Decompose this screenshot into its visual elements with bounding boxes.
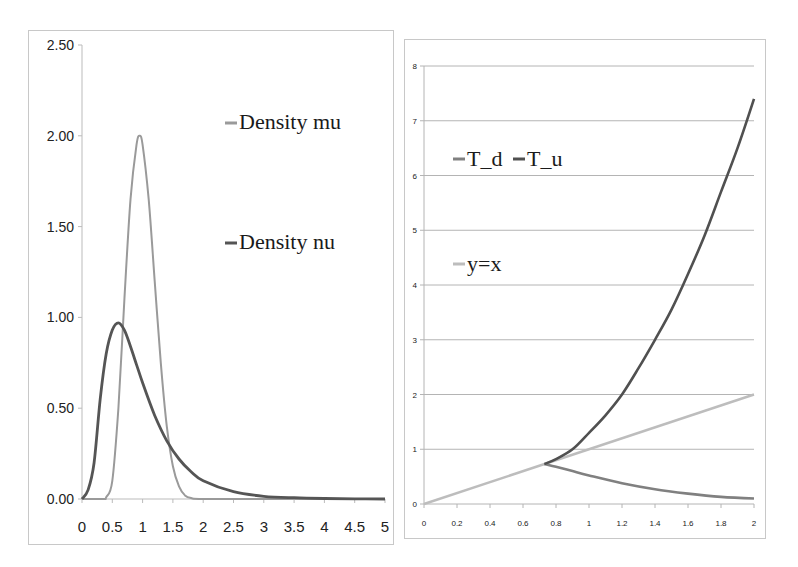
y-tick-label: 1.00 [47, 309, 74, 325]
y-tick-label: 6 [413, 172, 418, 181]
x-tick-label: 3 [260, 518, 268, 535]
density-chart: 0.000.501.001.502.002.5000.511.522.533.5… [29, 31, 393, 544]
series-line-density-mu [82, 136, 385, 499]
x-tick-label: 1 [587, 519, 592, 528]
series-line-t-u [544, 99, 754, 464]
x-tick-label: 1.5 [162, 518, 183, 535]
transform-chart: 01234567800.20.40.60.811.21.41.61.82T_dT… [405, 40, 765, 538]
legend-item-density-nu[interactable]: Density nu [225, 229, 335, 254]
legend-item-density-mu[interactable]: Density mu [225, 109, 341, 134]
legend-label: Density mu [239, 109, 341, 134]
y-tick-label: 3 [413, 336, 418, 345]
x-tick-label: 1.2 [616, 519, 628, 528]
y-tick-label: 0.50 [47, 400, 74, 416]
x-tick-label: 4.5 [344, 518, 365, 535]
y-tick-label: 1 [413, 445, 418, 454]
legend-item-y-x[interactable]: y=x [453, 251, 501, 276]
legend-item-t-u[interactable]: T_u [513, 146, 562, 171]
x-tick-label: 2.5 [223, 518, 244, 535]
y-tick-label: 0.00 [47, 491, 74, 507]
x-tick-label: 0.8 [550, 519, 562, 528]
x-tick-label: 3.5 [284, 518, 305, 535]
legend-label: y=x [467, 251, 501, 276]
x-tick-label: 2 [752, 519, 757, 528]
x-tick-label: 0 [78, 518, 86, 535]
y-tick-label: 0 [413, 500, 418, 509]
x-tick-label: 0 [422, 519, 427, 528]
series-line-t-d [544, 464, 754, 499]
legend-label: Density nu [239, 229, 335, 254]
x-tick-label: 1.8 [715, 519, 727, 528]
density-chart-panel: 0.000.501.001.502.002.5000.511.522.533.5… [28, 30, 394, 545]
x-tick-label: 0.5 [102, 518, 123, 535]
y-tick-label: 4 [413, 281, 418, 290]
y-tick-label: 2 [413, 391, 418, 400]
y-tick-label: 8 [413, 62, 418, 71]
x-tick-label: 5 [381, 518, 389, 535]
x-tick-label: 1.6 [682, 519, 694, 528]
series-line-density-nu [82, 323, 385, 499]
y-tick-label: 1.50 [47, 219, 74, 235]
y-tick-label: 2.50 [47, 37, 74, 53]
legend-label: T_d [467, 146, 502, 171]
x-tick-label: 1 [138, 518, 146, 535]
x-tick-label: 0.2 [451, 519, 463, 528]
y-tick-label: 7 [413, 117, 418, 126]
x-tick-label: 4 [320, 518, 328, 535]
legend-item-t-d[interactable]: T_d [453, 146, 502, 171]
x-tick-label: 2 [199, 518, 207, 535]
x-tick-label: 0.6 [517, 519, 529, 528]
transform-chart-panel: 01234567800.20.40.60.811.21.41.61.82T_dT… [404, 39, 766, 539]
legend-label: T_u [527, 146, 562, 171]
y-tick-label: 5 [413, 226, 418, 235]
x-tick-label: 0.4 [484, 519, 496, 528]
y-tick-label: 2.00 [47, 128, 74, 144]
x-tick-label: 1.4 [649, 519, 661, 528]
